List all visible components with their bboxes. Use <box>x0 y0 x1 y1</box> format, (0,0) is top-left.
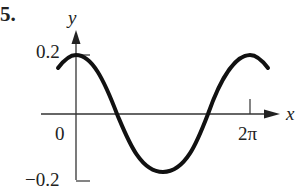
x-axis-arrow-icon <box>264 110 280 119</box>
x-tick-label-2pi: 2π <box>238 124 257 143</box>
origin-label: 0 <box>55 124 65 143</box>
chart-plot <box>0 0 305 194</box>
y-tick-label-top: 0.2 <box>36 42 60 61</box>
x-axis-label: x <box>286 104 294 123</box>
y-axis-label: y <box>68 8 76 27</box>
y-tick-label-bottom: −0.2 <box>25 170 59 189</box>
y-axis-arrow-icon <box>72 30 81 44</box>
